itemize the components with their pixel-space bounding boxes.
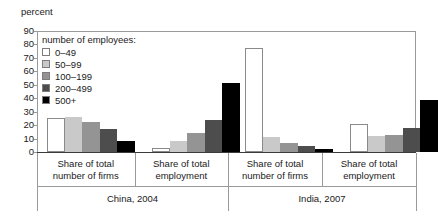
legend-item-label: 100–199 (55, 71, 92, 82)
x-axis-group-label: Share of totalnumber of firms (228, 158, 322, 181)
bar (245, 48, 263, 152)
y-tick-mark (34, 98, 37, 99)
y-tick-label: 90 (0, 26, 34, 36)
bar (65, 117, 83, 152)
legend-swatch-icon (42, 96, 50, 104)
y-tick-label: 30 (0, 107, 34, 117)
y-axis-title: percent (21, 6, 53, 18)
y-tick-label: 70 (0, 53, 34, 63)
bar (205, 120, 223, 152)
bar (117, 141, 135, 152)
bar (385, 135, 403, 152)
bar (47, 118, 65, 152)
country-label: India, 2007 (228, 193, 416, 204)
y-tick-mark (34, 112, 37, 113)
y-tick-label: 80 (0, 39, 34, 49)
legend-item: 0–49 (42, 46, 136, 58)
x-axis-group-label-line2: number of firms (228, 170, 322, 182)
bar (170, 141, 188, 152)
x-axis-baseline (37, 152, 416, 153)
legend-item: 100–199 (42, 70, 136, 82)
legend-item-label: 50–99 (55, 59, 81, 70)
legend-items: 0–4950–99100–199200–499500+ (42, 46, 136, 106)
bar (368, 136, 386, 152)
bar (420, 100, 438, 152)
bar (280, 143, 298, 152)
legend-title: number of employees: (42, 34, 136, 45)
x-axis-group-label: Share of totalemployment (322, 158, 416, 181)
bar (187, 133, 205, 152)
y-tick-mark (34, 139, 37, 140)
legend-item-label: 0–49 (55, 47, 76, 58)
x-axis-group-label: Share of totalemployment (135, 158, 229, 181)
bar (82, 122, 100, 152)
legend-swatch-icon (42, 84, 50, 92)
bar (298, 146, 316, 152)
x-axis-group-label-line1: Share of total (135, 158, 229, 170)
legend-swatch-icon (42, 60, 50, 68)
y-tick-mark (34, 125, 37, 126)
legend-item-label: 200–499 (55, 83, 92, 94)
legend-item: 50–99 (42, 58, 136, 70)
x-axis-group-label-line1: Share of total (322, 158, 416, 170)
bar (222, 83, 240, 152)
y-tick-label: 50 (0, 80, 34, 90)
country-cell-separator (416, 186, 417, 211)
y-tick-label: 40 (0, 93, 34, 103)
bar (350, 124, 368, 152)
axis-cell-separator (416, 153, 417, 186)
legend-item: 200–499 (42, 82, 136, 94)
y-tick-mark (34, 58, 37, 59)
y-tick-mark (34, 71, 37, 72)
legend-swatch-icon (42, 72, 50, 80)
legend-item: 500+ (42, 94, 136, 106)
legend-swatch-icon (42, 48, 50, 56)
y-tick-mark (34, 85, 37, 86)
legend-item-label: 500+ (55, 95, 76, 106)
x-axis-group-label-line2: employment (322, 170, 416, 182)
y-tick-mark (34, 44, 37, 45)
y-tick-label: 10 (0, 134, 34, 144)
y-tick-label: 60 (0, 66, 34, 76)
x-axis-group-label-line2: employment (135, 170, 229, 182)
x-axis-group-label-line1: Share of total (37, 158, 135, 170)
chart-legend: number of employees: 0–4950–99100–199200… (42, 34, 136, 106)
y-tick-label: 0 (0, 147, 34, 157)
x-axis-group-label-line2: number of firms (37, 170, 135, 182)
axis-row-separator (37, 186, 416, 187)
bar (403, 128, 421, 152)
x-axis-group-label-line1: Share of total (228, 158, 322, 170)
y-tick-label: 20 (0, 120, 34, 130)
country-label: China, 2004 (37, 193, 228, 204)
bar (315, 149, 333, 152)
bar (263, 137, 281, 152)
y-tick-mark (34, 31, 37, 32)
bar (100, 129, 118, 152)
x-axis-group-label: Share of totalnumber of firms (37, 158, 135, 181)
bar (152, 148, 170, 152)
